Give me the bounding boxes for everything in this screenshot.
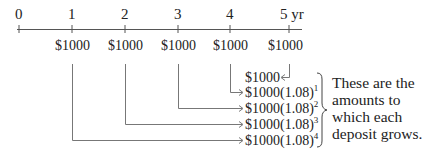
amount-4: $1000(1.08)4: [245, 134, 318, 148]
amount-3: $1000(1.08)3: [245, 118, 318, 132]
amount-1: $1000(1.08)1: [245, 86, 318, 100]
deposit-year-3: $1000: [161, 39, 196, 53]
tick-label-2: 2: [121, 7, 129, 22]
deposit-year-5: $1000: [268, 39, 303, 53]
brace: [317, 73, 327, 147]
tick-label-0: 0: [15, 7, 23, 22]
deposit-year-2: $1000: [108, 39, 143, 53]
tick-label-5: 5 yr: [280, 7, 304, 22]
tick-label-4: 4: [226, 7, 234, 22]
explanation-note: These are the amounts to which each depo…: [332, 74, 422, 142]
tick-label-1: 1: [68, 7, 76, 22]
amount-0: $1000: [245, 71, 280, 85]
amount-2: $1000(1.08)2: [245, 102, 318, 116]
tick-label-3: 3: [174, 7, 182, 22]
deposit-year-4: $1000: [213, 39, 248, 53]
deposit-year-1: $1000: [55, 39, 90, 53]
